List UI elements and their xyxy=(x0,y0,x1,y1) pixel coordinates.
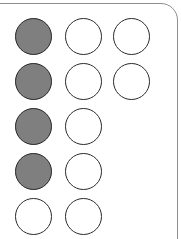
dot-r3-c1[interactable] xyxy=(15,108,52,145)
dot-r1-c2[interactable] xyxy=(65,18,102,55)
dot-r4-c2[interactable] xyxy=(65,153,102,190)
dot-r4-c1[interactable] xyxy=(15,153,52,190)
dot-r5-c1[interactable] xyxy=(15,198,52,235)
dot-r3-c2[interactable] xyxy=(65,108,102,145)
dot-r5-c2[interactable] xyxy=(65,198,102,235)
screenshot-root xyxy=(0,0,181,239)
dot-grid xyxy=(0,0,181,239)
dot-r2-c3[interactable] xyxy=(113,63,150,100)
dot-r1-c1[interactable] xyxy=(15,18,52,55)
dot-r2-c1[interactable] xyxy=(15,63,52,100)
dot-r2-c2[interactable] xyxy=(65,63,102,100)
dot-r1-c3[interactable] xyxy=(113,18,150,55)
